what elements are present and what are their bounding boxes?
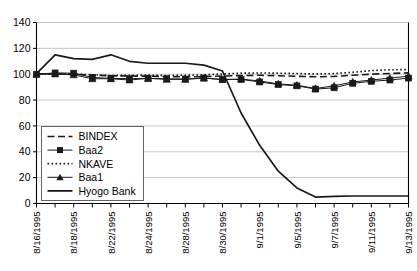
x-tick-label: 8/30/1995 — [217, 212, 228, 254]
y-tick-label: 20 — [19, 171, 31, 183]
x-tick-label: 9/1/1995 — [254, 212, 265, 249]
y-axis-tick-labels: 020406080100120140 — [13, 16, 31, 209]
line-chart: 020406080100120140 8/16/19958/18/19958/2… — [0, 0, 417, 271]
x-tick-label: 9/5/1995 — [292, 212, 303, 249]
chart-legend: BINDEXBaa2NKAVEBaa1Hyogo Bank — [42, 127, 144, 201]
y-tick-label: 60 — [19, 120, 31, 132]
legend-swatch-marker — [57, 147, 63, 153]
x-tick-label: 8/18/1995 — [68, 212, 79, 254]
legend-label: Hyogo Bank — [79, 185, 137, 197]
legend-label: Baa1 — [79, 171, 104, 183]
y-tick-label: 0 — [25, 197, 31, 209]
legend-label: Baa2 — [79, 144, 104, 156]
x-axis-tick-labels: 8/16/19958/18/19958/22/19958/24/19958/28… — [31, 212, 414, 254]
x-tick-label: 8/24/1995 — [143, 212, 154, 254]
y-tick-label: 40 — [19, 145, 31, 157]
legend-label: BINDEX — [79, 130, 118, 142]
x-tick-label: 9/7/1995 — [329, 212, 340, 249]
x-tick-label: 9/13/1995 — [403, 212, 414, 254]
x-tick-label: 8/22/1995 — [106, 212, 117, 254]
x-tick-label: 8/28/1995 — [180, 212, 191, 254]
x-tick-label: 9/11/1995 — [366, 212, 377, 254]
chart-container: 020406080100120140 8/16/19958/18/19958/2… — [0, 0, 417, 271]
y-tick-label: 100 — [13, 68, 31, 80]
x-tick-label: 8/16/1995 — [31, 212, 42, 254]
y-tick-label: 120 — [13, 42, 31, 54]
y-tick-label: 80 — [19, 94, 31, 106]
legend-label: NKAVE — [79, 158, 114, 170]
y-tick-label: 140 — [13, 16, 31, 28]
